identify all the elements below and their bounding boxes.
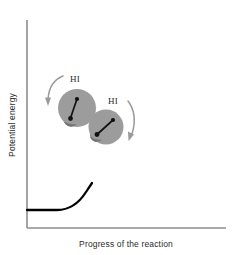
hydrogen-center-dot-2: [95, 132, 100, 137]
x-axis-label: Progress of the reaction: [27, 239, 225, 249]
hi-molecule-lower-right: [89, 110, 124, 145]
bond-dot-1: [75, 97, 79, 101]
diagram-canvas: [0, 0, 237, 255]
hydrogen-center-dot-1: [68, 116, 73, 121]
hi-molecule-upper-left-label: HI: [70, 74, 80, 84]
rotation-arrow-right-path: [128, 101, 134, 134]
energy-curve: [27, 183, 92, 210]
hi-molecule-lower-right-label: HI: [108, 96, 118, 106]
rotation-arrow-right: [128, 101, 134, 141]
y-axis-label: Potential energy: [7, 80, 17, 170]
rotation-arrow-left-head: [45, 98, 51, 107]
bond-dot-2: [111, 118, 115, 122]
potential-energy-diagram: HI HI Potential energy Progress of the r…: [0, 0, 237, 255]
rotation-arrow-left-path: [48, 76, 63, 99]
